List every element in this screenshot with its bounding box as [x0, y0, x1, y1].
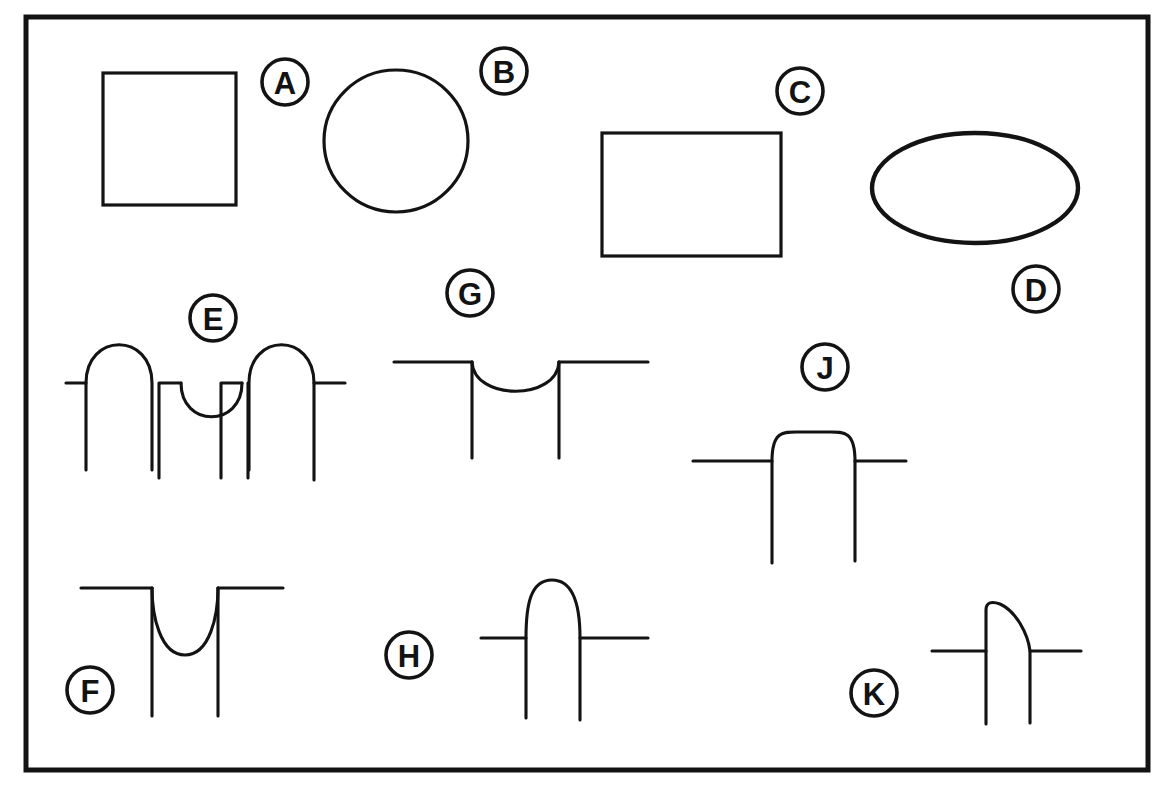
- figure-canvas: A B C D E F G H: [0, 0, 1167, 785]
- callout-text-k: K: [863, 677, 886, 712]
- callout-label-a[interactable]: A: [262, 59, 308, 105]
- shape-e-multi-bump-profile: [66, 345, 345, 480]
- shape-c-rectangle: [602, 133, 781, 256]
- callout-text-f: F: [81, 674, 100, 709]
- e-dip-left-wall: [159, 383, 181, 478]
- square-outline: [103, 73, 236, 205]
- j-arch: [772, 432, 855, 563]
- shape-k-asymmetric-arch-profile: [932, 602, 1081, 724]
- shape-d-ellipse: [872, 133, 1078, 243]
- callout-label-g[interactable]: G: [447, 270, 493, 316]
- callout-text-b: B: [493, 55, 515, 90]
- callout-text-g: G: [458, 277, 482, 312]
- e-arch-two: [249, 345, 314, 480]
- f-dip-curve: [152, 588, 218, 655]
- callout-label-h[interactable]: H: [386, 632, 432, 678]
- shape-a-square: [103, 73, 236, 205]
- callout-label-c[interactable]: C: [777, 68, 823, 114]
- shape-g-shallow-dip-profile: [394, 362, 648, 458]
- callout-text-d: D: [1025, 273, 1047, 308]
- shape-j-flat-top-arch-profile: [693, 432, 906, 563]
- e-central-dip: [181, 383, 242, 417]
- ellipse-outline: [872, 133, 1078, 243]
- callout-label-j[interactable]: J: [802, 344, 848, 390]
- g-dip-curve: [472, 362, 559, 391]
- circle-outline: [324, 70, 468, 212]
- callout-label-e[interactable]: E: [190, 295, 236, 341]
- callout-label-k[interactable]: K: [851, 670, 897, 716]
- callout-text-e: E: [203, 302, 224, 337]
- k-arch: [986, 602, 1030, 724]
- e-arch-one: [86, 345, 152, 470]
- callout-text-h: H: [398, 639, 420, 674]
- callout-label-d[interactable]: D: [1013, 266, 1059, 312]
- callout-text-a: A: [274, 66, 296, 101]
- shape-b-circle: [324, 70, 468, 212]
- shape-h-tall-arch-profile: [481, 580, 648, 720]
- callout-text-j: J: [816, 351, 833, 386]
- callout-text-c: C: [789, 75, 811, 110]
- h-arch: [526, 580, 580, 720]
- figure-plate: A B C D E F G H: [0, 0, 1167, 785]
- callout-label-f[interactable]: F: [67, 667, 113, 713]
- callout-label-b[interactable]: B: [481, 48, 527, 94]
- rectangle-outline: [602, 133, 781, 256]
